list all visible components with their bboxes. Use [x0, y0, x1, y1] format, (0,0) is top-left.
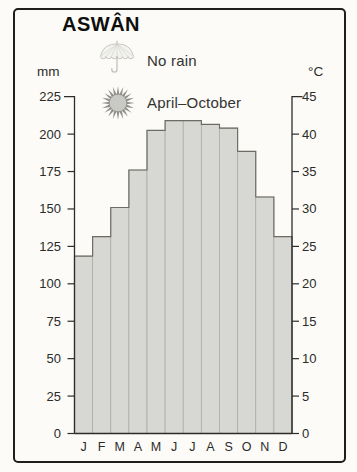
left-axis-tick-label: 75 — [47, 314, 61, 329]
month-label: N — [260, 440, 269, 454]
bar-month-O — [238, 151, 256, 433]
left-axis-tick-label: 225 — [39, 89, 61, 104]
month-label: M — [151, 440, 161, 454]
right-axis-tick-label: 45 — [302, 89, 316, 104]
month-label: A — [206, 440, 215, 454]
bar-month-M — [147, 130, 165, 433]
right-axis-tick-label: 30 — [302, 201, 316, 216]
bar-month-M — [111, 207, 129, 433]
right-axis-tick-label: 25 — [302, 239, 316, 254]
right-axis-line — [292, 97, 303, 434]
bar-month-S — [220, 128, 238, 433]
left-axis-line — [64, 97, 75, 434]
month-label: J — [171, 440, 177, 454]
left-axis-tick-label: 200 — [39, 127, 61, 142]
left-axis-tick-label: 150 — [39, 201, 61, 216]
bar-month-F — [93, 237, 111, 434]
month-label: O — [242, 440, 252, 454]
left-axis-tick-label: 175 — [39, 164, 61, 179]
right-axis-tick-label: 10 — [302, 351, 316, 366]
bar-month-J — [75, 256, 93, 433]
right-axis-tick-label: 20 — [302, 276, 316, 291]
right-axis-tick-label: 0 — [302, 426, 309, 441]
left-axis-tick-label: 0 — [54, 426, 61, 441]
month-label: F — [98, 440, 106, 454]
climate-bar-chart: 0255075100125150175200225051015202530354… — [0, 0, 357, 472]
right-axis-tick-label: 35 — [302, 164, 316, 179]
bar-month-D — [274, 237, 292, 434]
bar-month-J — [183, 121, 201, 434]
left-axis-tick-label: 125 — [39, 239, 61, 254]
month-label: M — [115, 440, 125, 454]
left-axis-tick-label: 50 — [47, 351, 61, 366]
climate-chart-page: ASWÂN No rain April–October mm °C 025507… — [0, 0, 357, 472]
right-axis-tick-label: 40 — [302, 127, 316, 142]
month-label: D — [278, 440, 287, 454]
month-label: A — [134, 440, 143, 454]
right-axis-tick-label: 15 — [302, 314, 316, 329]
month-label: S — [224, 440, 232, 454]
left-axis-tick-label: 25 — [47, 389, 61, 404]
bar-month-A — [201, 124, 219, 433]
bar-month-N — [256, 197, 274, 434]
month-label: J — [80, 440, 86, 454]
right-axis-tick-label: 5 — [302, 389, 309, 404]
left-axis-tick-label: 100 — [39, 276, 61, 291]
bar-month-J — [165, 121, 183, 434]
month-label: J — [189, 440, 195, 454]
bar-month-A — [129, 170, 147, 433]
